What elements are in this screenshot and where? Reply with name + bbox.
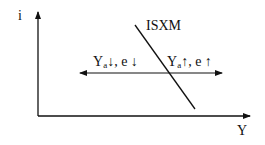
right-annotation: Ya↑, e ↑ xyxy=(167,55,212,70)
x-axis-label: Y xyxy=(237,124,247,138)
diagram-canvas: i Y ISXM Ya↓, e ↓ Ya↑, e ↑ xyxy=(0,0,265,145)
y-axis-label: i xyxy=(18,9,22,23)
diagram-graphics xyxy=(0,0,265,145)
isxm-label: ISXM xyxy=(146,19,181,33)
left-annotation: Ya↓, e ↓ xyxy=(93,55,138,70)
